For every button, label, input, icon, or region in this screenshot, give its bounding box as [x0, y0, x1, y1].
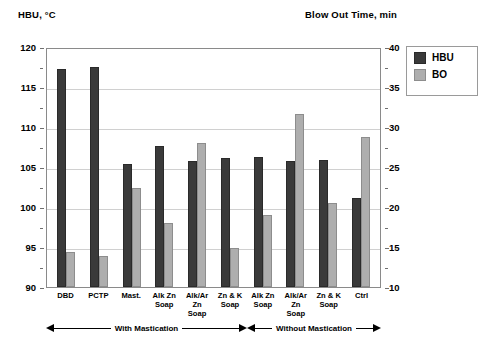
- x-axis-label: Mast.: [115, 291, 148, 318]
- left-axis-title: HBU, °C: [18, 9, 56, 20]
- group-annotation-label: With Mastication: [111, 324, 182, 333]
- left-tick-label: 120: [6, 43, 36, 53]
- bar-hbu: [286, 161, 295, 287]
- bar-bo: [263, 215, 272, 287]
- group-annotation-without-mastication: Without Mastication: [247, 317, 381, 339]
- right-tick-label: 10: [389, 283, 419, 293]
- x-axis-label: Alk ZnSoap: [148, 291, 181, 318]
- right-tick-label: 30: [389, 123, 419, 133]
- x-axis-label: Alk/Ar ZnSoap: [279, 291, 312, 318]
- group-annotation-label: Without Mastication: [272, 324, 356, 333]
- legend-swatch-hbu: [414, 52, 426, 64]
- bar-group: [246, 49, 279, 287]
- chart-legend: HBU BO: [406, 46, 478, 96]
- plot-area: [46, 48, 381, 288]
- bar-hbu: [254, 157, 263, 287]
- x-axis-label: Ctrl: [345, 291, 378, 318]
- bar-bo: [99, 256, 108, 287]
- left-tick-label: 115: [6, 83, 36, 93]
- arrow-left-icon: [46, 324, 54, 332]
- left-tick-label: 110: [6, 123, 36, 133]
- bar-hbu: [90, 67, 99, 287]
- left-tick-label: 90: [6, 283, 36, 293]
- bar-bo: [295, 114, 304, 287]
- bar-hbu: [319, 160, 328, 287]
- bar-groups: [47, 49, 380, 287]
- bar-hbu: [221, 158, 230, 287]
- bar-group: [50, 49, 83, 287]
- bar-group: [312, 49, 345, 287]
- left-tick-label: 105: [6, 163, 36, 173]
- right-tick-label: 15: [389, 243, 419, 253]
- bar-group: [344, 49, 377, 287]
- right-axis-title: Blow Out Time, min: [305, 9, 397, 20]
- bar-group: [115, 49, 148, 287]
- bar-group: [181, 49, 214, 287]
- legend-label-bo: BO: [432, 70, 447, 80]
- x-axis-label: Zn & KSoap: [312, 291, 345, 318]
- bar-group: [83, 49, 116, 287]
- arrow-right-icon: [373, 324, 381, 332]
- x-axis-label: Zn & KSoap: [214, 291, 247, 318]
- left-axis-ticks: 1201151101051009590: [6, 48, 40, 288]
- bar-bo: [361, 137, 370, 287]
- legend-label-hbu: HBU: [432, 53, 454, 63]
- bar-hbu: [123, 164, 132, 287]
- left-tick-label: 100: [6, 203, 36, 213]
- figure-caption: [10, 340, 410, 348]
- arrow-left-icon: [247, 324, 255, 332]
- x-axis-labels: DBDPCTPMast.Alk ZnSoapAlk/Ar ZnSoapZn & …: [46, 291, 381, 318]
- left-tick-label: 95: [6, 243, 36, 253]
- bar-hbu: [57, 69, 66, 287]
- x-axis-label: Alk/Ar ZnSoap: [181, 291, 214, 318]
- x-axis-label: DBD: [49, 291, 82, 318]
- chart-figure: HBU, °C Blow Out Time, min 1201151101051…: [0, 0, 486, 350]
- bar-hbu: [188, 161, 197, 287]
- x-axis-label: Alk ZnSoap: [246, 291, 279, 318]
- bar-bo: [230, 248, 239, 287]
- bar-hbu: [352, 198, 361, 287]
- arrow-right-icon: [239, 324, 247, 332]
- bar-group: [214, 49, 247, 287]
- bar-bo: [197, 143, 206, 287]
- legend-item-bo: BO: [414, 69, 477, 81]
- x-axis-label: PCTP: [82, 291, 115, 318]
- bar-group: [148, 49, 181, 287]
- bar-hbu: [155, 146, 164, 287]
- bar-bo: [132, 188, 141, 287]
- bar-bo: [66, 252, 75, 287]
- right-tick-label: 25: [389, 163, 419, 173]
- bar-bo: [164, 223, 173, 287]
- legend-item-hbu: HBU: [414, 52, 477, 64]
- legend-swatch-bo: [414, 69, 426, 81]
- group-annotation-with-mastication: With Mastication: [46, 317, 247, 339]
- right-tick-label: 20: [389, 203, 419, 213]
- bar-group: [279, 49, 312, 287]
- bar-bo: [328, 203, 337, 287]
